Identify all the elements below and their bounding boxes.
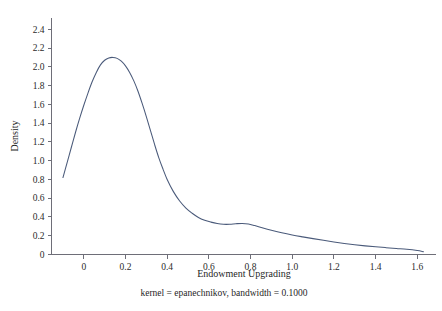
x-tick-label: 0.2	[120, 262, 132, 272]
y-tick-label: 2.0	[33, 62, 45, 72]
y-tick-label: 0.4	[33, 212, 45, 222]
y-tick-label: 2.4	[33, 25, 45, 35]
y-axis-ticks: 00.20.40.60.81.01.21.41.61.82.02.22.4	[33, 25, 52, 260]
x-tick-label: 0.4	[161, 262, 173, 272]
y-tick-label: 0.2	[33, 231, 45, 241]
y-axis-title: Density	[9, 120, 20, 151]
y-tick-label: 1.2	[33, 137, 45, 147]
kernel-density-figure: 00.20.40.60.81.01.21.41.61.82.02.22.4 00…	[0, 0, 442, 311]
density-curve-line	[63, 57, 424, 251]
x-tick-label: 1.6	[411, 262, 423, 272]
kernel-bandwidth-note: kernel = epanechnikov, bandwidth = 0.100…	[140, 288, 307, 298]
y-tick-label: 1.4	[33, 118, 45, 128]
x-tick-label: 0	[81, 262, 86, 272]
y-tick-label: 2.2	[33, 43, 45, 53]
y-tick-label: 0.6	[33, 193, 45, 203]
y-tick-label: 1.6	[33, 100, 45, 110]
x-axis-title: Endowment Upgrading	[197, 268, 291, 279]
y-tick-label: 1.0	[33, 156, 45, 166]
y-tick-label: 0	[40, 250, 45, 260]
density-plot-svg: 00.20.40.60.81.01.21.41.61.82.02.22.4 00…	[0, 0, 442, 311]
x-tick-label: 1.2	[328, 262, 340, 272]
y-tick-label: 1.8	[33, 81, 45, 91]
y-tick-label: 0.8	[33, 175, 45, 185]
x-tick-label: 1.4	[370, 262, 382, 272]
